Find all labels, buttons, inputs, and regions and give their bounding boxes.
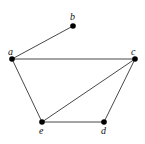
nodes: abcde [8, 11, 138, 136]
edges [12, 26, 135, 122]
node-label-c: c [131, 46, 136, 57]
node-e [39, 119, 45, 125]
node-label-b: b [70, 11, 75, 22]
node-label-d: d [101, 125, 107, 136]
edge-e-c [42, 59, 135, 122]
node-d [101, 119, 107, 125]
edge-d-c [104, 59, 135, 122]
node-label-e: e [39, 125, 44, 136]
node-c [132, 56, 138, 62]
node-label-a: a [8, 46, 13, 57]
graph-diagram: abcde [0, 0, 145, 144]
edge-a-b [12, 26, 73, 59]
edge-a-e [12, 59, 42, 122]
node-a [9, 56, 15, 62]
node-b [70, 23, 76, 29]
